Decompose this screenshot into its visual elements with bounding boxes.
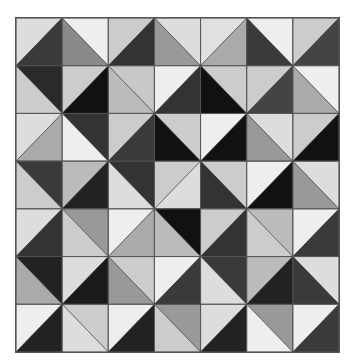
tile — [16, 66, 62, 114]
tile — [154, 209, 200, 257]
tile — [293, 113, 339, 161]
tile — [108, 18, 154, 66]
tile — [293, 161, 339, 209]
tile — [201, 161, 247, 209]
triangle-tile-grid — [15, 17, 340, 353]
tile — [154, 113, 200, 161]
tile — [247, 304, 293, 352]
tile — [293, 18, 339, 66]
tile — [247, 113, 293, 161]
tile — [108, 304, 154, 352]
tile — [154, 66, 200, 114]
tile — [247, 161, 293, 209]
tile — [16, 113, 62, 161]
tile — [201, 304, 247, 352]
tile — [62, 18, 108, 66]
tile — [108, 161, 154, 209]
tile — [293, 209, 339, 257]
tile — [201, 257, 247, 305]
tile — [16, 304, 62, 352]
tile — [154, 257, 200, 305]
tile — [62, 257, 108, 305]
tile — [201, 113, 247, 161]
tile — [16, 257, 62, 305]
tile — [62, 209, 108, 257]
tile — [16, 161, 62, 209]
tile — [16, 18, 62, 66]
tile — [108, 257, 154, 305]
tile — [247, 257, 293, 305]
tile — [62, 113, 108, 161]
tile — [108, 66, 154, 114]
tile — [108, 113, 154, 161]
tile — [293, 66, 339, 114]
tile — [62, 161, 108, 209]
tile — [201, 209, 247, 257]
tile — [154, 161, 200, 209]
tile — [201, 18, 247, 66]
tile — [247, 18, 293, 66]
tile-grid-canvas — [16, 18, 339, 352]
tile — [16, 209, 62, 257]
tile — [62, 66, 108, 114]
tile — [154, 304, 200, 352]
tile — [201, 66, 247, 114]
tile — [154, 18, 200, 66]
tile — [293, 257, 339, 305]
tile — [247, 66, 293, 114]
tile — [62, 304, 108, 352]
tile — [108, 209, 154, 257]
tile — [293, 304, 339, 352]
cropped-title — [0, 0, 349, 1]
tile — [247, 209, 293, 257]
